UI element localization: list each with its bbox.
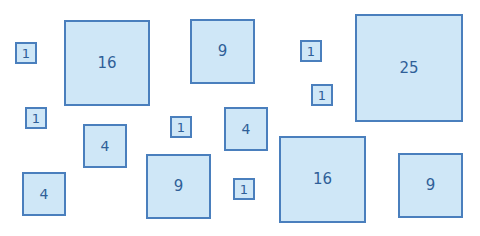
- square-label: 9: [174, 179, 184, 194]
- square-area-4: 4: [22, 172, 66, 216]
- square-label: 16: [97, 56, 116, 71]
- square-area-9: 9: [190, 19, 255, 84]
- square-area-1: 1: [300, 40, 322, 62]
- square-label: 4: [40, 187, 49, 201]
- square-area-1: 1: [15, 42, 37, 64]
- square-area-9: 9: [398, 153, 463, 218]
- square-area-9: 9: [146, 154, 211, 219]
- square-label: 1: [32, 112, 40, 125]
- square-area-1: 1: [233, 178, 255, 200]
- square-label: 25: [399, 61, 418, 76]
- square-label: 4: [242, 122, 251, 136]
- square-label: 1: [318, 89, 326, 102]
- square-area-16: 16: [64, 20, 150, 106]
- square-area-1: 1: [25, 107, 47, 129]
- square-area-16: 16: [279, 136, 366, 223]
- square-label: 16: [313, 172, 332, 187]
- squares-diagram: 1 16 9 1 25 1 1 4 1 4 4 9 1 16 9: [0, 0, 480, 236]
- square-area-4: 4: [224, 107, 268, 151]
- square-label: 1: [307, 45, 315, 58]
- square-area-25: 25: [355, 14, 463, 122]
- square-label: 9: [426, 178, 436, 193]
- square-label: 4: [101, 139, 110, 153]
- square-label: 1: [240, 183, 248, 196]
- square-area-1: 1: [170, 116, 192, 138]
- square-label: 1: [22, 47, 30, 60]
- square-label: 9: [218, 44, 228, 59]
- square-label: 1: [177, 121, 185, 134]
- square-area-4: 4: [83, 124, 127, 168]
- square-area-1: 1: [311, 84, 333, 106]
